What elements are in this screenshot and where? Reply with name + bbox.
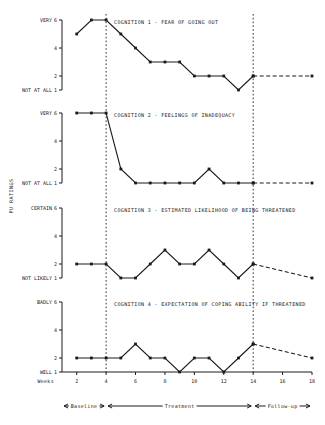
- data-point-panel-4: [149, 357, 152, 360]
- data-point-panel-1: [208, 75, 211, 78]
- panel-title-2: COGNITION 2 - FEELINGS OF INADEQUACY: [114, 112, 235, 118]
- data-point-panel-2: [90, 112, 93, 115]
- data-point-panel-3: [208, 249, 211, 252]
- y-top-label-panel-1: VERY: [40, 17, 52, 23]
- x-tick-label: 14: [250, 378, 256, 384]
- x-tick-label: 16: [280, 378, 286, 384]
- followup-data-point-panel-1: [311, 75, 314, 78]
- data-point-panel-4: [193, 357, 196, 360]
- x-tick-label: 10: [191, 378, 197, 384]
- y-bottom-label-panel-1: NOT AT ALL: [22, 87, 52, 93]
- y-tick-label-panel-2: 4: [54, 138, 57, 144]
- phase-label: Follow-up: [268, 403, 298, 410]
- data-point-panel-1: [149, 61, 152, 64]
- series-line-panel-1: [77, 20, 253, 90]
- data-point-panel-3: [222, 263, 225, 266]
- y-tick-label-panel-4: 6: [54, 299, 57, 305]
- data-point-panel-4: [119, 357, 122, 360]
- data-point-panel-4: [134, 343, 137, 346]
- y-bottom-label-panel-4: WELL: [40, 369, 52, 375]
- y-tick-label-panel-4: 4: [54, 327, 57, 333]
- single-case-design-figure: 1246VERYNOT AT ALLCOGNITION 1 - FEAR OF …: [0, 0, 325, 425]
- y-tick-label-panel-3: 4: [54, 233, 57, 239]
- data-point-panel-3: [134, 277, 137, 280]
- data-point-panel-2: [164, 182, 167, 185]
- followup-line-panel-4: [253, 344, 312, 358]
- y-tick-label-panel-3: 1: [54, 275, 57, 281]
- data-point-panel-3: [178, 263, 181, 266]
- y-bottom-label-panel-2: NOT AT ALL: [22, 180, 52, 186]
- y-top-label-panel-3: CERTAIN: [31, 205, 52, 211]
- y-tick-label-panel-1: 4: [54, 45, 57, 51]
- figure-root: 1246VERYNOT AT ALLCOGNITION 1 - FEAR OF …: [0, 0, 325, 425]
- followup-data-point-panel-4: [311, 357, 314, 360]
- x-tick-label: 8: [163, 378, 166, 384]
- data-point-panel-2: [237, 182, 240, 185]
- y-top-label-panel-2: VERY: [40, 110, 52, 116]
- y-tick-label-panel-2: 6: [54, 110, 57, 116]
- data-point-panel-2: [178, 182, 181, 185]
- x-axis-label: Weeks: [37, 378, 54, 384]
- panel-title-3: COGNITION 3 - ESTIMATED LIKELIHOOD OF BE…: [114, 207, 295, 213]
- y-tick-label-panel-2: 2: [54, 166, 57, 172]
- x-tick-label: 4: [105, 378, 108, 384]
- data-point-panel-3: [75, 263, 78, 266]
- data-point-panel-4: [208, 357, 211, 360]
- data-point-panel-3: [237, 277, 240, 280]
- data-point-panel-3: [164, 249, 167, 252]
- data-point-panel-2: [193, 182, 196, 185]
- data-point-panel-2: [75, 112, 78, 115]
- x-tick-label: 18: [309, 378, 315, 384]
- phase-label: Baseline: [71, 403, 97, 409]
- data-point-panel-3: [193, 263, 196, 266]
- phase-label: Treatment: [165, 403, 195, 409]
- data-point-panel-4: [90, 357, 93, 360]
- data-point-panel-2: [119, 168, 122, 171]
- panel-title-4: COGNITION 4 - EXPECTATION OF COPING ABIL…: [114, 301, 306, 307]
- data-point-panel-1: [237, 89, 240, 92]
- series-line-panel-2: [77, 113, 253, 183]
- y-axis-title: PU RATINGS: [8, 178, 14, 213]
- data-point-panel-1: [222, 75, 225, 78]
- y-tick-label-panel-3: 2: [54, 261, 57, 267]
- data-point-panel-1: [178, 61, 181, 64]
- data-point-panel-2: [222, 182, 225, 185]
- data-point-panel-1: [90, 19, 93, 22]
- data-point-panel-1: [193, 75, 196, 78]
- data-point-panel-1: [75, 33, 78, 36]
- data-point-panel-1: [134, 47, 137, 50]
- data-point-panel-2: [208, 168, 211, 171]
- y-tick-label-panel-1: 6: [54, 17, 57, 23]
- followup-data-point-panel-3: [311, 277, 314, 280]
- y-tick-label-panel-1: 1: [54, 87, 57, 93]
- data-point-panel-2: [134, 182, 137, 185]
- y-tick-label-panel-1: 2: [54, 73, 57, 79]
- data-point-panel-4: [75, 357, 78, 360]
- panel-title-1: COGNITION 1 - FEAR OF GOING OUT: [114, 19, 218, 25]
- x-tick-label: 12: [221, 378, 227, 384]
- y-tick-label-panel-4: 2: [54, 355, 57, 361]
- x-tick-label: 2: [75, 378, 78, 384]
- y-top-label-panel-4: BADLY: [37, 299, 52, 305]
- data-point-panel-3: [149, 263, 152, 266]
- followup-data-point-panel-2: [311, 182, 314, 185]
- data-point-panel-4: [237, 357, 240, 360]
- y-tick-label-panel-2: 1: [54, 180, 57, 186]
- data-point-panel-3: [90, 263, 93, 266]
- followup-line-panel-3: [253, 264, 312, 278]
- y-tick-label-panel-3: 6: [54, 205, 57, 211]
- data-point-panel-3: [119, 277, 122, 280]
- series-line-panel-3: [77, 250, 253, 278]
- data-point-panel-1: [164, 61, 167, 64]
- y-bottom-label-panel-3: NOT LIKELY: [22, 275, 52, 281]
- y-tick-label-panel-4: 1: [54, 369, 57, 375]
- x-tick-label: 6: [134, 378, 137, 384]
- data-point-panel-4: [164, 357, 167, 360]
- data-point-panel-2: [149, 182, 152, 185]
- data-point-panel-1: [119, 33, 122, 36]
